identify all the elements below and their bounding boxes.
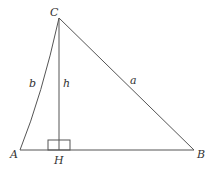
side-label-a: a — [130, 74, 137, 87]
vertex-label-A: A — [9, 148, 18, 161]
side-a-CB — [59, 18, 194, 150]
vertex-label-H: H — [53, 154, 64, 167]
vertex-label-C: C — [50, 6, 59, 19]
side-label-h: h — [63, 77, 70, 90]
vertex-label-B: B — [196, 148, 205, 161]
side-label-b: b — [29, 77, 36, 90]
triangle-diagram: C A H B b h a — [0, 0, 215, 172]
side-b-AC — [20, 18, 59, 150]
